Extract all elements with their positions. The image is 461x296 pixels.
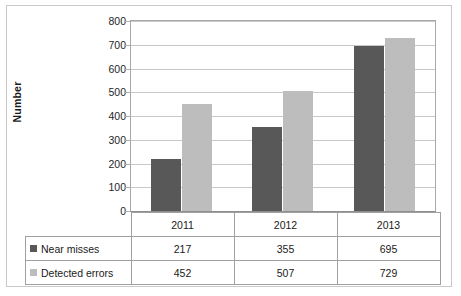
- table-value-cell: 729: [337, 261, 440, 285]
- y-axis-tick-mark: [124, 187, 130, 188]
- y-axis-tick-mark: [124, 69, 130, 70]
- legend-swatch-icon: [30, 245, 37, 252]
- y-axis-tick-mark: [124, 116, 130, 117]
- table-value-cell: 507: [234, 261, 337, 285]
- bar: [283, 91, 313, 211]
- table-row: Detected errors452507729: [26, 261, 441, 285]
- bar: [252, 127, 282, 211]
- y-axis-tick-labels: 8007006005004003002001000: [88, 20, 126, 212]
- bar-group: [131, 21, 232, 211]
- y-axis-tick-mark: [124, 45, 130, 46]
- y-axis-tick-label: 100: [92, 181, 126, 193]
- legend-swatch-icon: [30, 269, 37, 276]
- chart-figure: Number 8007006005004003002001000 2011201…: [0, 0, 461, 296]
- y-axis-tick-label: 800: [92, 15, 126, 27]
- y-axis-tick-label: 300: [92, 134, 126, 146]
- table-category-header: 2012: [234, 213, 337, 237]
- y-axis-tick-label: 700: [92, 39, 126, 51]
- table-header-row: 201120122013: [26, 213, 441, 237]
- table-category-header: 2013: [337, 213, 440, 237]
- table-category-header: 2011: [131, 213, 234, 237]
- table-row: Near misses217355695: [26, 237, 441, 261]
- table-value-cell: 217: [131, 237, 234, 261]
- legend-entry: Near misses: [26, 237, 132, 261]
- y-axis-tick-label: 200: [92, 158, 126, 170]
- bar: [354, 46, 384, 211]
- y-axis-tick-label: 500: [92, 86, 126, 98]
- y-axis-tick-mark: [124, 21, 130, 22]
- table-value-cell: 355: [234, 237, 337, 261]
- y-axis-tick-label: 600: [92, 63, 126, 75]
- bar: [182, 104, 212, 211]
- chart-data-table: 201120122013Near misses217355695Detected…: [25, 212, 441, 285]
- table-corner-cell: [26, 213, 132, 237]
- y-axis-tick-mark: [124, 140, 130, 141]
- bar: [385, 38, 415, 211]
- y-axis-tick-mark: [124, 92, 130, 93]
- legend-label: Near misses: [41, 243, 99, 255]
- y-axis-tick-mark: [124, 164, 130, 165]
- legend-label: Detected errors: [41, 267, 113, 279]
- y-axis-title: Number: [11, 57, 23, 147]
- legend-entry: Detected errors: [26, 261, 132, 285]
- bar: [151, 159, 181, 211]
- y-axis-tick-label: 400: [92, 110, 126, 122]
- bar-group: [334, 21, 435, 211]
- table-value-cell: 452: [131, 261, 234, 285]
- bars-layer: [131, 21, 435, 211]
- y-axis-tick-mark: [124, 211, 130, 212]
- table-value-cell: 695: [337, 237, 440, 261]
- bar-group: [232, 21, 333, 211]
